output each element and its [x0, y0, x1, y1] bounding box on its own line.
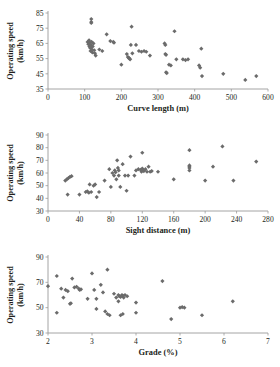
- data-point: [109, 185, 113, 189]
- data-point: [105, 268, 109, 272]
- data-point: [108, 39, 112, 43]
- data-point: [231, 299, 235, 303]
- data-point: [134, 311, 138, 315]
- y-axis-title-line2: (km/h): [16, 161, 25, 185]
- x-tick-label: 300: [152, 93, 164, 102]
- x-tick-label: 280: [262, 215, 274, 224]
- data-point: [254, 74, 258, 78]
- x-tick-label: 4: [134, 337, 138, 346]
- data-point: [94, 307, 98, 311]
- data-point-group: [63, 144, 258, 199]
- data-point: [134, 43, 138, 47]
- y-tick-label: 30: [36, 329, 44, 338]
- x-axis-title: Sight distance (m): [126, 226, 191, 235]
- x-axis-title: Curve length (m): [127, 104, 189, 113]
- x-tick-label: 2: [46, 337, 50, 346]
- y-tick-label: 50: [36, 181, 44, 190]
- x-tick-label: 0: [46, 215, 50, 224]
- data-point: [199, 47, 203, 51]
- data-point: [107, 167, 111, 171]
- scatter-plot-figure: 3545556575850100200300400500600Curve len…: [0, 0, 280, 367]
- data-point: [90, 271, 94, 275]
- x-tick-label: 500: [226, 93, 238, 102]
- data-point: [116, 299, 120, 303]
- x-tick-label: 5: [178, 337, 182, 346]
- data-point: [101, 290, 105, 294]
- x-tick-label: 120: [137, 215, 149, 224]
- x-tick-label: 200: [116, 93, 128, 102]
- data-point: [77, 192, 81, 196]
- chart-svg-2: 3040506070809004080120160200240280Sight …: [0, 122, 280, 244]
- data-point: [94, 297, 98, 301]
- y-tick-label: 80: [36, 143, 44, 152]
- data-point: [156, 170, 160, 174]
- data-point: [148, 53, 152, 57]
- data-point: [132, 173, 136, 177]
- data-point: [169, 317, 173, 321]
- data-point: [220, 144, 224, 148]
- x-tick-label: 0: [46, 93, 50, 102]
- data-point: [160, 279, 164, 283]
- data-point: [174, 57, 178, 61]
- data-point: [126, 173, 130, 177]
- data-point: [130, 51, 134, 55]
- x-tick-label: 6: [222, 337, 226, 346]
- chart-svg-1: 3545556575850100200300400500600Curve len…: [0, 0, 280, 122]
- chart-panel-sight-distance: 3040506070809004080120160200240280Sight …: [0, 122, 280, 244]
- chart-panel-grade: 30507090234567Grade (%)Operating speed(k…: [0, 244, 280, 367]
- y-tick-label: 40: [36, 194, 44, 203]
- data-point: [172, 177, 176, 181]
- y-axis-title-line1: Operating speed: [6, 266, 15, 324]
- data-point: [130, 25, 134, 29]
- data-point: [203, 179, 207, 183]
- y-tick-label: 55: [36, 54, 44, 63]
- data-point: [66, 192, 70, 196]
- y-tick-label: 75: [36, 24, 44, 33]
- data-point: [59, 287, 63, 291]
- x-tick-label: 160: [168, 215, 180, 224]
- y-tick-label: 90: [36, 253, 44, 262]
- data-point: [134, 301, 138, 305]
- y-axis-title-line1: Operating speed: [6, 22, 15, 80]
- y-tick-label: 50: [36, 303, 44, 312]
- x-tick-label: 240: [231, 215, 243, 224]
- data-point: [114, 177, 118, 181]
- y-tick-label: 70: [36, 278, 44, 287]
- y-axis-title-line1: Operating speed: [6, 144, 15, 202]
- data-point: [211, 165, 215, 169]
- y-axis-title: Operating speed(km/h): [6, 266, 25, 324]
- data-point: [243, 78, 247, 82]
- data-point: [254, 160, 258, 164]
- x-tick-label: 600: [262, 93, 274, 102]
- x-tick-label: 400: [189, 93, 201, 102]
- y-tick-label: 70: [36, 156, 44, 165]
- x-tick-label: 3: [90, 337, 94, 346]
- data-point: [187, 148, 191, 152]
- data-point: [200, 313, 204, 317]
- y-tick-label: 85: [36, 9, 44, 18]
- y-axis-title: Operating speed(km/h): [6, 22, 25, 80]
- data-point: [119, 63, 123, 67]
- data-point: [128, 154, 132, 158]
- data-point: [97, 190, 101, 194]
- data-point: [99, 283, 103, 287]
- data-point: [115, 158, 119, 162]
- data-point: [112, 292, 116, 296]
- data-point: [86, 297, 90, 301]
- data-point: [55, 274, 59, 278]
- data-point: [46, 284, 50, 288]
- data-point: [117, 173, 121, 177]
- data-point: [121, 162, 125, 166]
- data-point: [129, 43, 133, 47]
- data-point: [146, 165, 150, 169]
- data-point: [187, 168, 191, 172]
- data-point: [88, 182, 92, 186]
- y-axis-title: Operating speed(km/h): [6, 144, 25, 202]
- x-tick-label: 40: [76, 215, 84, 224]
- x-tick-label: 80: [107, 215, 115, 224]
- x-tick-label: 100: [79, 93, 91, 102]
- y-tick-label: 90: [36, 131, 44, 140]
- chart-svg-3: 30507090234567Grade (%)Operating speed(k…: [0, 244, 280, 367]
- x-axis-title: Grade (%): [139, 348, 178, 357]
- y-tick-label: 30: [36, 207, 44, 216]
